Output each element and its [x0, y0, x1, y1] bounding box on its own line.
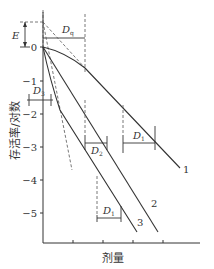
x-axis-label: 剂量: [102, 251, 124, 265]
d1-bottom-label: D1: [102, 205, 115, 217]
dq-label: Dq: [61, 24, 74, 37]
d2-label: D2: [90, 145, 103, 157]
y-tick-4: −4: [22, 175, 37, 186]
y-axis-label: 存活率/对数: [8, 101, 22, 160]
curve-1-label: 1: [183, 164, 189, 175]
d1-bracket: [123, 105, 155, 153]
curve-1: [43, 47, 180, 168]
e-label: E: [11, 30, 20, 41]
y-tick-5: −5: [22, 208, 37, 219]
d2-bracket: [85, 100, 107, 150]
curve-2-label: 2: [151, 198, 157, 209]
y-tick-2: −2: [22, 109, 37, 120]
d1-label: D1: [132, 130, 145, 142]
curve-3-label: 3: [137, 217, 143, 228]
y-tick-3: −3: [22, 142, 37, 153]
curve3-extrapolation: [43, 22, 72, 170]
survival-diagram: 0 −1 −2 −3 −4 −5 存活率/对数 剂量 E Dq 1 2 3 D1: [0, 0, 214, 269]
y-tick-0: 0: [31, 42, 37, 53]
